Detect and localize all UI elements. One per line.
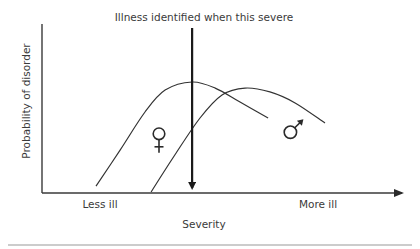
- severity-probability-chart: Illness identified when this severe Prob…: [0, 0, 420, 249]
- male-curve: [151, 88, 325, 192]
- x-tick-label-more-ill: More ill: [299, 198, 337, 210]
- female-symbol-icon: [153, 128, 165, 153]
- y-axis-label: Probability of disorder: [20, 43, 32, 159]
- female-curve: [96, 82, 268, 186]
- male-symbol-icon: [284, 119, 303, 138]
- x-axis-label: Severity: [182, 218, 225, 230]
- x-tick-label-less-ill: Less ill: [82, 198, 117, 210]
- chart-title: Illness identified when this severe: [115, 11, 293, 23]
